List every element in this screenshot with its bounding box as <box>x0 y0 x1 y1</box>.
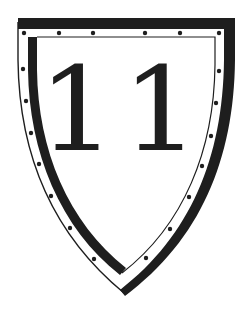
shield-number: 11 <box>0 52 244 168</box>
shield-top-band <box>18 18 235 29</box>
